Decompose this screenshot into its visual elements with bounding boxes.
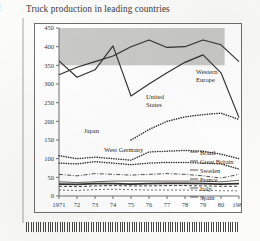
svg-text:150: 150 bbox=[44, 136, 54, 143]
plot-frame: 0501001502002503003504004501971727374757… bbox=[34, 23, 242, 213]
chart-title: Truck production in leading countries bbox=[26, 4, 242, 14]
svg-text:76: 76 bbox=[146, 201, 152, 208]
series-great-britain bbox=[59, 174, 239, 178]
svg-text:450: 450 bbox=[44, 24, 54, 31]
svg-text:100: 100 bbox=[44, 155, 54, 162]
series-brazil bbox=[59, 162, 239, 169]
series-france bbox=[59, 183, 239, 184]
svg-text:250: 250 bbox=[44, 99, 54, 106]
svg-text:0: 0 bbox=[51, 192, 54, 199]
svg-text:77: 77 bbox=[164, 201, 171, 208]
chart-svg: 0501001502002503003504004501971727374757… bbox=[35, 24, 241, 212]
svg-text:1971: 1971 bbox=[53, 201, 66, 208]
svg-text:75: 75 bbox=[128, 201, 134, 208]
y-axis-label: '000 Units (more than 6 tons gross weigh… bbox=[0, 0, 1, 14]
svg-text:200: 200 bbox=[44, 118, 54, 125]
shaded-band bbox=[59, 28, 225, 65]
svg-text:78: 78 bbox=[182, 201, 188, 208]
svg-text:350: 350 bbox=[44, 62, 54, 69]
svg-text:74: 74 bbox=[110, 201, 117, 208]
svg-text:50: 50 bbox=[48, 174, 55, 181]
scan-edge-artifact bbox=[22, 18, 24, 223]
series-west-germany bbox=[59, 150, 239, 160]
series-japan bbox=[131, 113, 239, 140]
svg-text:300: 300 bbox=[44, 80, 54, 87]
svg-text:79: 79 bbox=[200, 201, 206, 208]
svg-text:80: 80 bbox=[218, 201, 224, 208]
svg-text:73: 73 bbox=[92, 201, 98, 208]
svg-text:400: 400 bbox=[44, 43, 54, 50]
series-spain bbox=[59, 189, 239, 190]
svg-text:72: 72 bbox=[74, 201, 80, 208]
svg-text:1981: 1981 bbox=[233, 201, 241, 208]
figure-root: Truck production in leading countries 05… bbox=[0, 0, 260, 241]
series-italy bbox=[59, 186, 239, 187]
scan-barcode-artifact bbox=[26, 222, 238, 232]
series-sweden bbox=[59, 180, 239, 182]
